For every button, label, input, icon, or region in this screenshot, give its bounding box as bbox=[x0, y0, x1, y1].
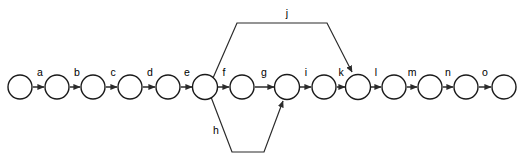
node-n13[interactable] bbox=[454, 75, 478, 99]
graph-canvas: a b c d e f g i k l m n o j h bbox=[0, 0, 524, 163]
node-n12[interactable] bbox=[418, 75, 442, 99]
node-n5[interactable] bbox=[156, 75, 180, 99]
node-n2[interactable] bbox=[45, 75, 69, 99]
node-n7[interactable] bbox=[230, 75, 254, 99]
node-n3[interactable] bbox=[81, 75, 105, 99]
edge-label-h: h bbox=[213, 124, 219, 136]
node-n4[interactable] bbox=[118, 75, 142, 99]
edge-label-n: n bbox=[445, 66, 451, 78]
graph-diagram: a b c d e f g i k l m n o j h bbox=[0, 0, 524, 163]
edge-label-f: f bbox=[223, 66, 226, 78]
node-n1[interactable] bbox=[8, 75, 32, 99]
node-n14[interactable] bbox=[492, 75, 516, 99]
edge-label-a: a bbox=[37, 66, 43, 78]
node-n10[interactable] bbox=[346, 75, 371, 100]
edge-label-i: i bbox=[305, 66, 307, 78]
edge-label-m: m bbox=[408, 66, 417, 78]
chain-edge-labels: a b c d e f g i k l m n o bbox=[37, 66, 488, 78]
edge-h-path bbox=[211, 97, 283, 152]
edge-label-d: d bbox=[147, 66, 153, 78]
edge-label-e: e bbox=[184, 66, 190, 78]
edge-label-c: c bbox=[110, 66, 115, 78]
node-n9[interactable] bbox=[312, 75, 336, 99]
edge-label-k: k bbox=[338, 66, 344, 78]
node-n11[interactable] bbox=[382, 75, 406, 99]
edge-j-path bbox=[213, 23, 352, 78]
edge-label-b: b bbox=[74, 66, 80, 78]
node-n8[interactable] bbox=[275, 75, 300, 100]
edge-label-o: o bbox=[482, 66, 488, 78]
edge-label-j: j bbox=[285, 7, 288, 19]
edge-label-g: g bbox=[261, 66, 267, 78]
node-n6[interactable] bbox=[193, 75, 218, 100]
edge-label-l: l bbox=[375, 66, 377, 78]
